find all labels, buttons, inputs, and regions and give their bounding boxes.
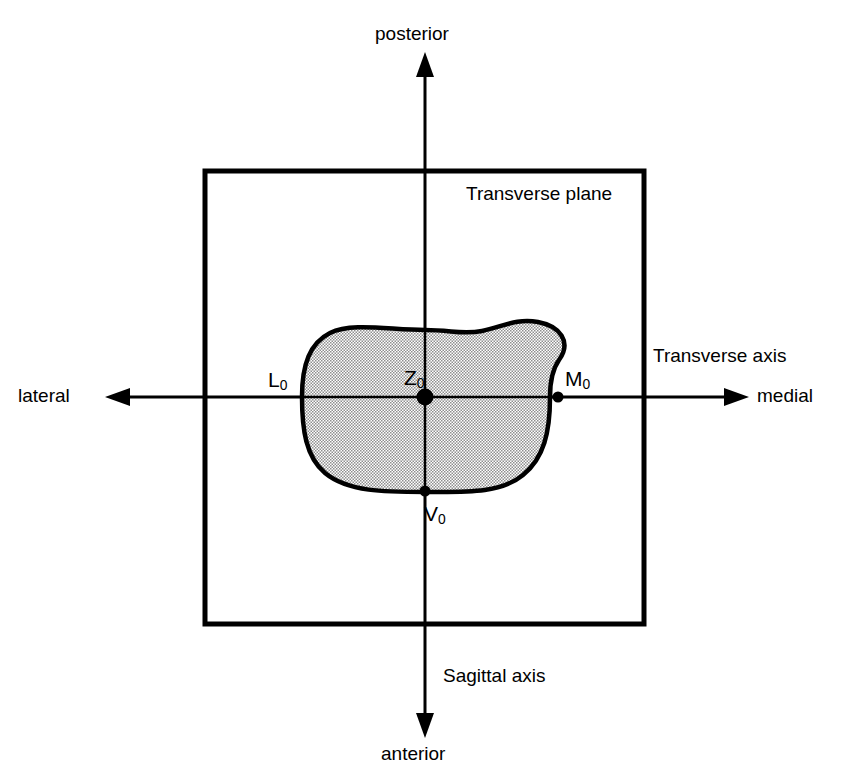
label-point-M0: M0 (565, 368, 590, 392)
lateral-arrowhead-icon (105, 388, 130, 406)
point-V0-subscript: 0 (438, 511, 446, 527)
point-L0-letter: L (268, 368, 280, 391)
point-marker-Z0 (417, 389, 434, 406)
bone-cross-section-shape (302, 321, 564, 492)
label-transverse-plane: Transverse plane (466, 184, 612, 203)
point-M0-letter: M (565, 367, 583, 390)
anatomical-diagram: posterior anterior lateral medial Transv… (0, 0, 848, 776)
label-point-Z0: Z0 (404, 367, 425, 391)
label-sagittal-axis: Sagittal axis (443, 666, 545, 685)
label-point-V0: V0 (424, 503, 446, 527)
label-lateral: lateral (18, 386, 70, 405)
point-Z0-subscript: 0 (417, 375, 425, 391)
label-anterior: anterior (381, 744, 445, 763)
label-transverse-axis: Transverse axis (653, 346, 786, 365)
point-Z0-letter: Z (404, 366, 417, 389)
point-V0-letter: V (424, 502, 438, 525)
anterior-arrowhead-icon (416, 713, 434, 738)
point-marker-M0 (553, 392, 564, 403)
point-L0-subscript: 0 (280, 377, 288, 393)
label-posterior: posterior (375, 24, 449, 43)
posterior-arrowhead-icon (416, 52, 434, 77)
medial-arrowhead-icon (724, 388, 749, 406)
point-marker-V0 (420, 486, 431, 497)
point-M0-subscript: 0 (583, 376, 591, 392)
label-medial: medial (757, 386, 813, 405)
label-point-L0: L0 (268, 369, 287, 393)
